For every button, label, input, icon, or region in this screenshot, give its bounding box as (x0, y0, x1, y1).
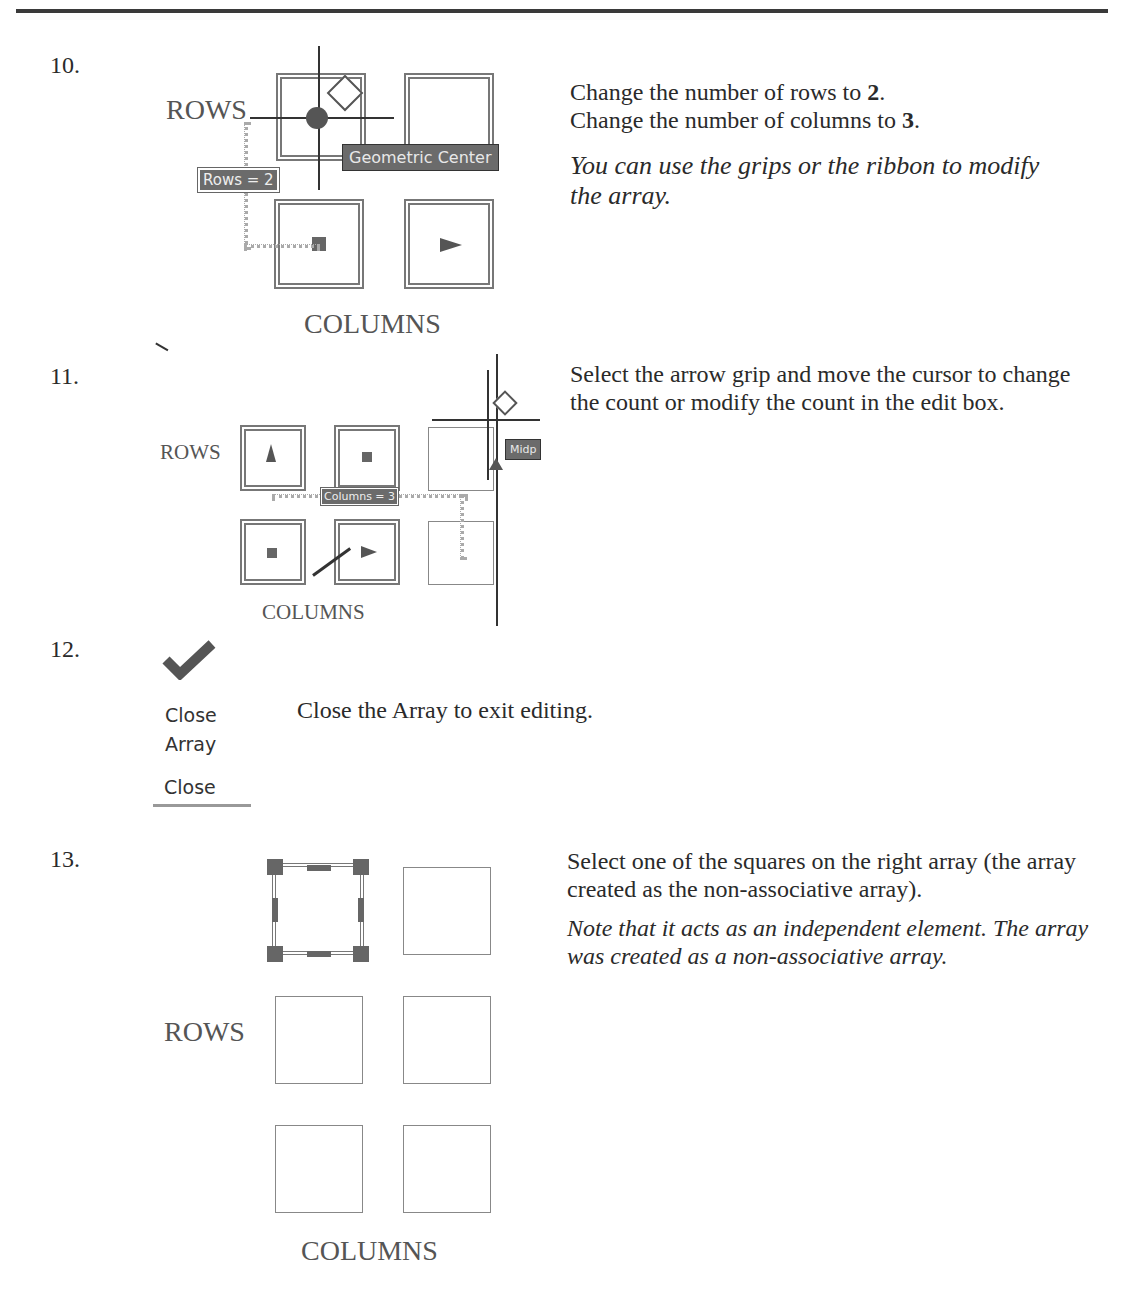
arrow-grip-icon[interactable] (440, 238, 462, 252)
columns-label: COLUMNS (301, 1235, 438, 1267)
step-13-note: Note that it acts as an independent elem… (567, 914, 1107, 970)
square-grip[interactable] (362, 452, 372, 462)
step-11-instruction: Select the arrow grip and move the curso… (570, 360, 1100, 416)
columns-edit-value: Columns = 3 (322, 489, 397, 504)
corner-grip[interactable] (267, 859, 283, 875)
rows-label: ROWS (164, 1016, 245, 1048)
array-square[interactable] (275, 1125, 363, 1213)
base-point-grip[interactable] (306, 107, 328, 129)
crosshair-horizontal (432, 419, 540, 421)
header-rule (16, 9, 1108, 13)
corner-grip[interactable] (353, 946, 369, 962)
rows-edit-value: Rows = 2 (200, 170, 277, 190)
preview-square (428, 427, 494, 491)
rows-edit-box[interactable]: Rows = 2 (197, 167, 280, 193)
rows-label: ROWS (166, 94, 247, 126)
rows-label: ROWS (160, 440, 221, 465)
step-13-number: 13. (50, 846, 80, 873)
dimension-guide (244, 244, 320, 248)
close-array-label-line2: Array (165, 733, 216, 755)
checkmark-icon (160, 640, 220, 680)
step-13-instruction: Select one of the squares on the right a… (567, 847, 1107, 903)
step-10-instruction: Change the number of rows to 2. Change t… (570, 78, 920, 134)
snap-tooltip: Midp (505, 439, 541, 460)
step-12-number: 12. (50, 636, 80, 663)
stray-mark (156, 343, 169, 351)
ribbon-panel-label: Close (164, 776, 216, 798)
selected-square[interactable] (272, 863, 364, 955)
dimension-guide (460, 494, 464, 560)
columns-label: COLUMNS (262, 600, 365, 625)
midpoint-grip[interactable] (307, 951, 331, 957)
column-arrow-grip-icon[interactable] (361, 546, 377, 558)
midpoint-grip[interactable] (272, 898, 278, 922)
array-square[interactable] (403, 867, 491, 955)
columns-edit-box[interactable]: Columns = 3 (320, 487, 399, 506)
step-12-instruction: Close the Array to exit editing. (297, 696, 593, 724)
corner-grip[interactable] (267, 946, 283, 962)
square-grip[interactable] (267, 548, 277, 558)
close-array-label-line1: Close (165, 704, 217, 726)
midpoint-grip[interactable] (307, 865, 331, 871)
step-10-note: You can use the grips or the ribbon to m… (570, 151, 1040, 211)
crosshair-vertical (496, 354, 498, 626)
corner-grip[interactable] (353, 859, 369, 875)
step-11-number: 11. (50, 363, 79, 390)
ribbon-panel-divider (153, 804, 251, 807)
snap-tooltip: Geometric Center (342, 144, 499, 171)
step-10-number: 10. (50, 52, 80, 79)
array-square[interactable] (275, 996, 363, 1084)
midpoint-snap-icon (489, 458, 503, 470)
midpoint-grip[interactable] (358, 898, 364, 922)
array-square[interactable] (403, 996, 491, 1084)
array-square[interactable] (403, 1125, 491, 1213)
columns-label: COLUMNS (304, 308, 441, 340)
row-arrow-grip-icon[interactable] (266, 444, 276, 462)
